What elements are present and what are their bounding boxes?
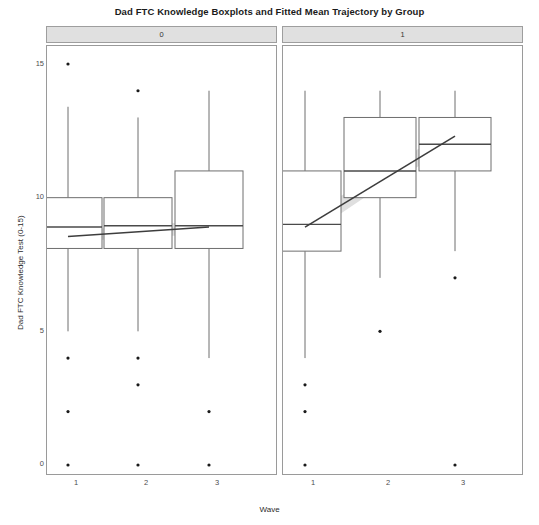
outlier-point xyxy=(66,356,69,359)
outlier-point xyxy=(303,463,306,466)
y-tick-label: 0 xyxy=(22,459,44,468)
y-tick-label: 5 xyxy=(22,326,44,335)
chart-title: Dad FTC Knowledge Boxplots and Fitted Me… xyxy=(0,6,539,17)
facet-strip-label: 0 xyxy=(159,30,163,39)
box xyxy=(344,117,416,197)
outlier-point xyxy=(136,356,139,359)
facet-plot-area-0 xyxy=(47,46,277,475)
outlier-point xyxy=(136,463,139,466)
y-tick-label: 15 xyxy=(22,59,44,68)
facet-strip-label: 1 xyxy=(400,30,404,39)
y-tick-label: 10 xyxy=(22,192,44,201)
x-tick-label: 2 xyxy=(136,478,156,487)
outlier-point xyxy=(453,463,456,466)
outlier-point xyxy=(66,62,69,65)
outlier-point xyxy=(136,383,139,386)
box xyxy=(175,171,243,249)
outlier-point xyxy=(453,276,456,279)
facet-panel-0 xyxy=(46,45,277,475)
y-axis-title: Dad FTC Knowledge Test (0-15) xyxy=(16,215,25,330)
facet-strip-0: 0 xyxy=(46,26,277,43)
box xyxy=(47,198,102,249)
facet-strip-1: 1 xyxy=(282,26,523,43)
facet-plot-area-1 xyxy=(283,46,523,475)
x-tick-label: 3 xyxy=(453,478,473,487)
x-tick-label: 1 xyxy=(66,478,86,487)
outlier-point xyxy=(303,410,306,413)
box xyxy=(104,198,172,249)
x-tick-label: 3 xyxy=(207,478,227,487)
boxplot-group xyxy=(47,62,243,466)
chart-figure: Dad FTC Knowledge Boxplots and Fitted Me… xyxy=(0,0,539,525)
boxplot-group xyxy=(283,91,491,467)
outlier-point xyxy=(207,410,210,413)
x-tick-label: 2 xyxy=(378,478,398,487)
outlier-point xyxy=(66,410,69,413)
outlier-point xyxy=(378,330,381,333)
x-axis-title: Wave xyxy=(0,505,539,514)
facet-panel-1 xyxy=(282,45,523,475)
outlier-point xyxy=(66,463,69,466)
x-tick-label: 1 xyxy=(303,478,323,487)
outlier-point xyxy=(303,383,306,386)
outlier-point xyxy=(136,89,139,92)
outlier-point xyxy=(207,463,210,466)
